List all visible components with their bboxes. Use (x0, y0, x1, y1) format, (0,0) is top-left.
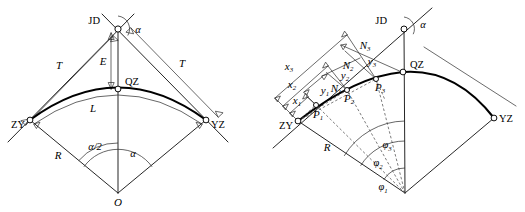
tangent-right-measure (131, 28, 218, 117)
external-label: E (99, 55, 107, 67)
r-n3-arrow-start (341, 44, 347, 49)
tangent-left-measure (26, 36, 113, 125)
yz-label: YZ (211, 119, 225, 130)
forward-tangent-line (102, 14, 228, 142)
r-zy-label: ZY (279, 120, 293, 131)
r-offset-x2-label: x2 (287, 78, 297, 91)
o-label: O (114, 196, 122, 208)
r-qz-node (400, 69, 406, 75)
radius-label: R (54, 149, 62, 161)
r-chord-n3-label: N3 (359, 39, 371, 52)
zy-label: ZY (11, 119, 25, 130)
radius-left-line (30, 120, 118, 193)
r-radius-label: R (323, 141, 331, 153)
jd-label: JD (88, 15, 100, 26)
zy-node (27, 117, 33, 123)
r-phi2-label: φ2 (373, 157, 383, 169)
r-offset-x3-label: x3 (284, 60, 294, 73)
qz-node (115, 86, 121, 92)
curve-diagrams-svg: JD QZ ZY YZ O T T E L R α α/2 α (0, 0, 525, 212)
r-radius-left-line (298, 121, 405, 193)
curve-length-label: L (89, 102, 96, 114)
jd-node (115, 26, 121, 32)
r-x3-arrow-end (342, 32, 347, 38)
r-main-curve (298, 72, 494, 121)
alpha-top-label: α (135, 24, 141, 35)
r-offset-y3-label: y3 (367, 55, 377, 68)
r-n2-arrow-start (322, 74, 327, 79)
r-point-p1-label: P1 (312, 108, 323, 121)
r-offset-y1-label: y1 (320, 84, 329, 97)
r-jd-node (401, 26, 407, 32)
r-center-axis-line (404, 29, 405, 193)
alpha-half-label: α/2 (88, 141, 102, 152)
right-diagram: JD QZ ZY YZ R α N1 N2 N3 x1 x2 x3 y1 y2 (273, 8, 516, 193)
r-zy-node (295, 118, 301, 124)
r-yz-node (491, 115, 497, 121)
alpha-center-label: α (130, 148, 136, 159)
r-jd-label: JD (375, 15, 387, 26)
r-yz-label: YZ (499, 113, 513, 124)
qz-label: QZ (125, 76, 139, 87)
r-point-p3-label: P3 (374, 81, 386, 94)
tangent-right-arrow-bottom (215, 111, 222, 117)
r-point-p2-label: P2 (343, 92, 355, 105)
r-alpha-label: α (420, 19, 426, 30)
tangent-left-label: T (56, 59, 63, 71)
r-phi3-label: φ3 (382, 139, 392, 151)
r-qz-label: QZ (410, 59, 424, 70)
r-phi1-label: φ1 (378, 181, 387, 193)
tangent-right-label: T (179, 57, 186, 69)
r-offset-x1-label: x1 (292, 94, 301, 107)
r-radius-right-line (405, 118, 494, 193)
figure-root: JD QZ ZY YZ O T T E L R α α/2 α (0, 0, 525, 212)
left-diagram: JD QZ ZY YZ O T T E L R α α/2 α (8, 14, 228, 208)
r-phi1-arc (384, 168, 405, 180)
r-back-tangent-line (273, 8, 432, 148)
yz-node (203, 117, 209, 123)
